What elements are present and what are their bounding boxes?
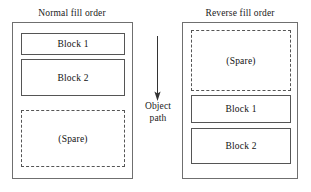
block-label: (Spare) — [58, 134, 87, 144]
panel-reverse-fill-order: (Spare) Block 1 Block 2 — [182, 22, 298, 179]
block-label: (Spare) — [226, 56, 255, 66]
block-reverse-block2: Block 2 — [191, 128, 291, 164]
object-path-caption-line2: path — [136, 113, 180, 125]
block-label: Block 2 — [57, 73, 88, 83]
diagram-canvas: Normal fill order Block 1 Block 2 (Spare… — [0, 0, 311, 192]
panel-title-reverse: Reverse fill order — [182, 8, 298, 18]
block-label: Block 1 — [225, 104, 256, 114]
object-path-caption: Object path — [136, 101, 180, 124]
block-normal-spare: (Spare) — [21, 110, 125, 167]
block-normal-block2: Block 2 — [21, 59, 125, 96]
panel-normal-fill-order: Block 1 Block 2 (Spare) — [12, 22, 133, 179]
block-label: Block 1 — [57, 39, 88, 49]
panel-title-normal: Normal fill order — [12, 8, 132, 18]
block-reverse-block1: Block 1 — [191, 95, 291, 123]
block-normal-block1: Block 1 — [21, 33, 125, 55]
block-label: Block 2 — [225, 141, 256, 151]
block-reverse-spare: (Spare) — [191, 30, 291, 91]
object-path-caption-line1: Object — [136, 101, 180, 113]
